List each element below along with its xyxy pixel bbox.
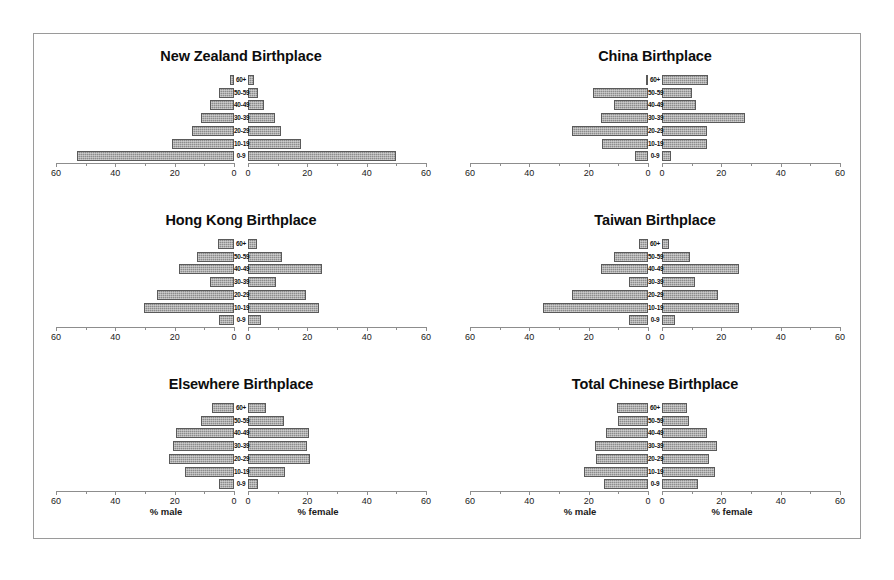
bar-row (470, 276, 648, 289)
bar-row (56, 150, 234, 163)
axis-tick (500, 163, 501, 166)
bar-row (662, 150, 840, 163)
bar-row (470, 402, 648, 415)
age-group-label: 0-9 (234, 314, 248, 327)
axis-tick (115, 327, 116, 331)
axis-tick-label: 20 (302, 332, 312, 342)
male-bar (210, 100, 234, 110)
axis-tick (692, 327, 693, 330)
male-bar (617, 403, 648, 413)
axis-tick-label: 0 (231, 168, 236, 178)
male-bar (543, 303, 648, 313)
axis-tick (721, 491, 722, 495)
age-group-label: 0-9 (234, 478, 248, 491)
axis-tick-label: 20 (302, 496, 312, 506)
pyramid-halves: 60+50-5940-4930-3920-2910-190-9 (470, 402, 840, 491)
male-bar (157, 290, 234, 300)
age-group-label: 20-29 (234, 289, 248, 302)
plot-area: 60+50-5940-4930-3920-2910-190-9020406002… (56, 74, 426, 169)
male-bar (201, 416, 234, 426)
age-group-label: 10-19 (648, 138, 662, 151)
female-x-axis (662, 163, 840, 164)
axis-tick (248, 163, 249, 167)
male-axis-caption: % male (564, 506, 597, 517)
bar-row (248, 263, 426, 276)
male-bar (618, 416, 648, 426)
bar-row (248, 251, 426, 264)
axis-tick-label: 20 (584, 496, 594, 506)
male-x-axis (470, 491, 648, 492)
female-bar (248, 454, 310, 464)
axis-tick (470, 327, 471, 331)
age-group-label: 60+ (234, 402, 248, 415)
axis-tick (115, 163, 116, 167)
axis-tick-label: 20 (170, 496, 180, 506)
axis-tick (500, 491, 501, 494)
male-bar (601, 113, 648, 123)
axis-tick (86, 491, 87, 494)
bar-row (248, 112, 426, 125)
bar-row (248, 402, 426, 415)
age-group-label: 50-59 (648, 87, 662, 100)
age-group-label: 20-29 (234, 125, 248, 138)
bar-row (56, 276, 234, 289)
axis-tick (662, 163, 663, 167)
male-bar (212, 403, 234, 413)
male-half (470, 74, 648, 163)
axis-tick (721, 327, 722, 331)
bar-row (56, 263, 234, 276)
age-group-label: 10-19 (234, 138, 248, 151)
female-x-axis (248, 491, 426, 492)
female-bar (248, 277, 276, 287)
male-bar (201, 113, 234, 123)
axis-tick (115, 491, 116, 495)
age-group-label: 30-39 (234, 112, 248, 125)
age-group-labels: 60+50-5940-4930-3920-2910-190-9 (648, 238, 662, 327)
age-group-label: 30-39 (234, 440, 248, 453)
age-group-label: 50-59 (648, 251, 662, 264)
axis-tick (367, 491, 368, 495)
female-bar (662, 467, 715, 477)
age-group-labels: 60+50-5940-4930-3920-2910-190-9 (234, 74, 248, 163)
female-bar (662, 454, 709, 464)
age-group-label: 50-59 (234, 415, 248, 428)
bar-row (56, 112, 234, 125)
axis-tick-label: 60 (421, 332, 431, 342)
bar-row (470, 440, 648, 453)
axis-tick-label: 60 (51, 168, 61, 178)
age-group-label: 60+ (648, 74, 662, 87)
axis-tick (840, 327, 841, 331)
axis-tick-label: 40 (524, 168, 534, 178)
bar-row (248, 125, 426, 138)
age-group-label: 50-59 (234, 251, 248, 264)
bar-row (662, 276, 840, 289)
female-bar (248, 290, 306, 300)
age-group-label: 10-19 (234, 466, 248, 479)
axis-tick-label: 0 (645, 332, 650, 342)
bar-row (248, 238, 426, 251)
male-bar (593, 88, 648, 98)
panel-title: Elsewhere Birthplace (34, 376, 448, 392)
bar-row (56, 74, 234, 87)
axis-tick (721, 163, 722, 167)
female-bar (662, 303, 739, 313)
female-bar (662, 100, 696, 110)
female-bar (248, 315, 261, 325)
male-x-axis (56, 327, 234, 328)
pyramid-halves: 60+50-5940-4930-3920-2910-190-9 (56, 74, 426, 163)
axis-tick-label: 20 (716, 332, 726, 342)
axis-tick (692, 491, 693, 494)
female-bar (248, 252, 282, 262)
female-half (248, 238, 426, 327)
bar-row (662, 466, 840, 479)
female-bar (662, 416, 689, 426)
bar-row (470, 466, 648, 479)
axis-tick (145, 163, 146, 166)
female-bar (248, 441, 307, 451)
female-x-axis (248, 163, 426, 164)
axis-tick-label: 40 (110, 332, 120, 342)
axis-tick (234, 491, 235, 495)
axis-tick (204, 163, 205, 166)
plot-area: 60+50-5940-4930-3920-2910-190-9020406002… (56, 402, 426, 497)
age-group-label: 30-39 (234, 276, 248, 289)
